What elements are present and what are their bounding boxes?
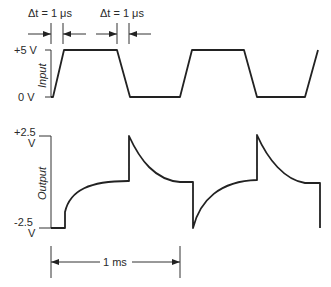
output-axis-label: Output [36, 166, 48, 200]
output-waveform [51, 135, 320, 228]
differentiator-waveform-diagram: Δt = 1 μs Δt = 1 μs +5 V 0 V Input +2.5 … [0, 0, 331, 287]
input-waveform [51, 50, 318, 97]
period-label: 1 ms [103, 256, 127, 268]
input-axis-label: Input [36, 63, 48, 88]
output-bottom-tick-line2: V [28, 227, 36, 239]
input-bottom-tick-label: 0 V [18, 91, 35, 103]
fall-time-label: Δt = 1 μs [100, 7, 144, 19]
input-axis: +5 V 0 V Input [14, 44, 51, 103]
rise-time-label: Δt = 1 μs [28, 7, 72, 19]
period-annotation: 1 ms [51, 246, 180, 278]
output-axis: +2.5 V -2.5 V Output [14, 126, 51, 239]
fall-time-annotation: Δt = 1 μs [96, 7, 151, 44]
output-top-tick-line2: V [28, 137, 36, 149]
rise-time-annotation: Δt = 1 μs [28, 7, 86, 44]
input-top-tick-label: +5 V [14, 44, 38, 56]
